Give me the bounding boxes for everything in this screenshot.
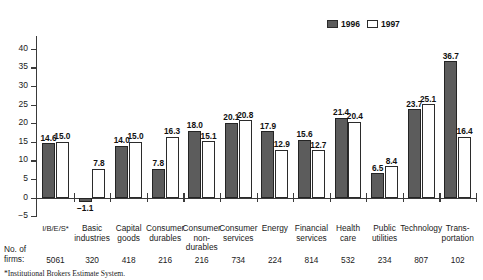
y-tick-label: −5 xyxy=(4,210,28,220)
category-separator xyxy=(403,193,404,202)
firms-title-line-2: firms: xyxy=(4,255,26,265)
bar-value-label-1997-8: 20.4 xyxy=(340,111,370,121)
bar-value-label-1996-4: 18.0 xyxy=(180,120,210,130)
chart-legend: 1996 1997 xyxy=(327,19,400,29)
y-tick-label: 30 xyxy=(4,80,28,90)
category-label-line: durables xyxy=(174,243,230,253)
bar-value-label-1996-7: 15.6 xyxy=(290,129,320,139)
category-separator xyxy=(147,193,148,202)
bar-1997-7 xyxy=(312,150,325,197)
y-tick-5: 5 xyxy=(0,179,36,180)
category-separator xyxy=(439,193,440,202)
y-tick-label: 20 xyxy=(4,117,28,127)
category-label-line: portation xyxy=(430,234,483,244)
legend-item-1997: 1997 xyxy=(367,19,400,29)
bar-1997-8 xyxy=(348,122,361,198)
bar-value-label-1996-1: −1.1 xyxy=(70,203,100,213)
bar-1996-2 xyxy=(115,146,128,198)
y-tick-40: 40 xyxy=(0,49,36,50)
bar-1996-0 xyxy=(42,143,55,197)
bar-value-label-1997-9: 8.4 xyxy=(376,156,406,166)
bar-1997-4 xyxy=(202,141,215,197)
category-separator xyxy=(293,193,294,202)
bar-1996-1 xyxy=(79,198,92,202)
y-tick-mark xyxy=(31,123,36,124)
y-tick-label: 5 xyxy=(4,173,28,183)
category-label-line: services xyxy=(210,234,266,244)
bar-value-label-1997-4: 15.1 xyxy=(194,131,224,141)
y-tick-label: 35 xyxy=(4,61,28,71)
y-tick-label: 0 xyxy=(4,192,28,202)
category-separator xyxy=(110,193,111,202)
y-tick-mark xyxy=(31,49,36,50)
firms-value-11: 102 xyxy=(436,255,480,265)
bar-1996-5 xyxy=(225,123,238,198)
bar-chart: 1996 1997 4035302520151050−5 14.615.0−1.… xyxy=(0,0,483,280)
y-axis-line xyxy=(36,36,37,217)
y-tick-neg5: −5 xyxy=(0,216,36,217)
bar-value-label-1997-2: 15.0 xyxy=(121,131,151,141)
category-separator xyxy=(183,193,184,202)
bar-1996-9 xyxy=(371,173,384,197)
y-tick-mark xyxy=(31,105,36,106)
legend-item-1996: 1996 xyxy=(327,19,360,29)
bar-1997-0 xyxy=(56,142,69,198)
y-tick-mark xyxy=(31,160,36,161)
y-tick-15: 15 xyxy=(0,142,36,143)
legend-label-1996: 1996 xyxy=(341,19,360,29)
bar-value-label-1996-11: 36.7 xyxy=(436,51,466,61)
bar-1997-6 xyxy=(275,150,288,198)
bar-1996-10 xyxy=(408,109,421,197)
legend-swatch-1996 xyxy=(327,20,338,28)
y-tick-label: 25 xyxy=(4,99,28,109)
y-tick-mark xyxy=(31,216,36,217)
bar-1997-2 xyxy=(129,142,142,198)
bar-value-label-1997-0: 15.0 xyxy=(47,131,77,141)
bar-value-label-1997-5: 20.8 xyxy=(230,110,260,120)
y-tick-label: 40 xyxy=(4,43,28,53)
bar-1997-11 xyxy=(458,137,471,198)
bar-value-label-1997-6: 12.9 xyxy=(267,139,297,149)
y-tick-25: 25 xyxy=(0,105,36,106)
y-tick-10: 10 xyxy=(0,160,36,161)
legend-swatch-1997 xyxy=(367,20,378,28)
bar-1996-8 xyxy=(335,118,348,198)
bar-1997-1 xyxy=(92,169,105,198)
bar-value-label-1997-11: 16.4 xyxy=(450,126,480,136)
y-tick-0: 0 xyxy=(0,198,36,199)
category-label-line: utilities xyxy=(357,234,413,244)
y-tick-label: 15 xyxy=(4,136,28,146)
category-separator xyxy=(476,193,477,202)
y-tick-mark xyxy=(31,67,36,68)
bar-value-label-1997-10: 25.1 xyxy=(413,94,443,104)
category-separator xyxy=(220,193,221,202)
category-separator xyxy=(366,193,367,202)
bar-1997-10 xyxy=(422,104,435,197)
chart-footnote: *Institutional Brokers Estimate System. xyxy=(4,269,125,278)
bar-1997-5 xyxy=(239,120,252,197)
y-tick-mark xyxy=(31,86,36,87)
y-tick-label: 10 xyxy=(4,154,28,164)
category-separator xyxy=(257,193,258,202)
firms-row-title: No. of firms: xyxy=(4,245,26,264)
bar-1997-9 xyxy=(385,166,398,197)
bar-value-label-1997-7: 12.7 xyxy=(303,140,333,150)
category-separator xyxy=(330,193,331,202)
y-tick-35: 35 xyxy=(0,67,36,68)
bar-1997-3 xyxy=(166,137,179,198)
y-tick-30: 30 xyxy=(0,86,36,87)
y-tick-20: 20 xyxy=(0,123,36,124)
legend-label-1997: 1997 xyxy=(381,19,400,29)
category-label-11: Trans-portation xyxy=(430,224,483,243)
category-separator xyxy=(74,193,75,202)
y-tick-mark xyxy=(31,179,36,180)
bar-1996-3 xyxy=(152,169,165,198)
bar-value-label-1997-1: 7.8 xyxy=(84,158,114,168)
bar-value-label-1996-6: 17.9 xyxy=(253,121,283,131)
